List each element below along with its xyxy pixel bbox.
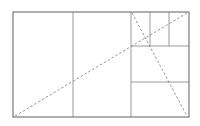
golden-rectangle-diagram <box>0 0 200 126</box>
dashed-diagonal-2 <box>132 13 187 116</box>
subdivision-lines <box>73 12 189 117</box>
diagonal-dashed-lines <box>15 13 187 116</box>
dashed-diagonal-1 <box>15 13 187 116</box>
